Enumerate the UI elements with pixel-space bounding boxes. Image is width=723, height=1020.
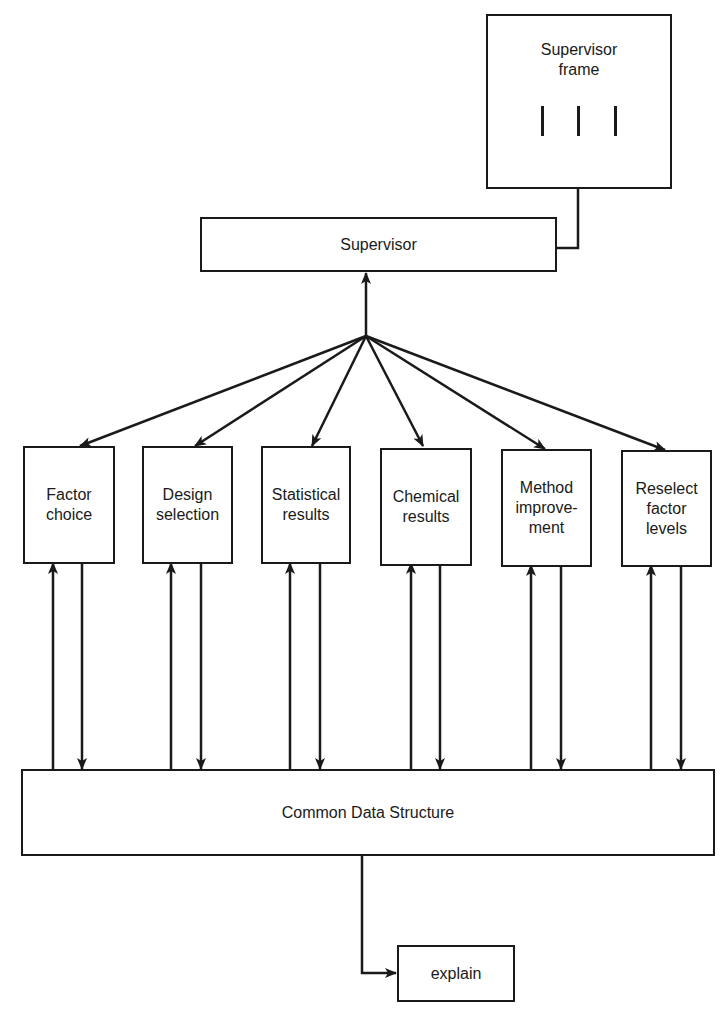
supervisor-frame-label: Supervisor frame [488, 40, 670, 80]
supervisor-frame-slots [488, 106, 670, 136]
common-data-structure-label: Common Data Structure [282, 803, 455, 823]
factor-choice-label: Factor choice [46, 485, 92, 525]
chemical-results-label: Chemical results [393, 487, 460, 527]
common-data-structure-box: Common Data Structure [21, 769, 715, 856]
frame-to-supervisor-connector [556, 188, 578, 248]
hub-to-chemical-results-arrow [366, 336, 423, 446]
frame-slot-marker [614, 106, 617, 136]
explain-box: explain [397, 945, 515, 1002]
hub-to-reselect-factor-levels-arrow [366, 336, 665, 450]
reselect-factor-levels-box: Reselect factor levels [621, 450, 712, 567]
hub-to-factor-choice-arrow [80, 336, 366, 446]
design-selection-box: Design selection [142, 446, 233, 564]
supervisor-label: Supervisor [340, 235, 416, 255]
reselect-factor-levels-label: Reselect factor levels [635, 479, 697, 539]
frame-slot-marker [577, 106, 580, 136]
statistical-results-label: Statistical results [272, 485, 340, 525]
statistical-results-box: Statistical results [261, 446, 351, 564]
supervisor-box: Supervisor [200, 217, 557, 272]
explain-label: explain [431, 964, 482, 984]
cds-to-explain-arrow [362, 855, 396, 973]
chemical-results-box: Chemical results [380, 448, 472, 566]
supervisor-frame-box: Supervisor frame [486, 14, 672, 189]
design-selection-label: Design selection [156, 485, 219, 525]
factor-choice-box: Factor choice [23, 446, 115, 564]
method-improvement-box: Method improve- ment [501, 449, 592, 567]
frame-slot-marker [541, 106, 544, 136]
hub-to-method-improvement-arrow [366, 336, 545, 449]
method-improvement-label: Method improve- ment [515, 478, 577, 538]
